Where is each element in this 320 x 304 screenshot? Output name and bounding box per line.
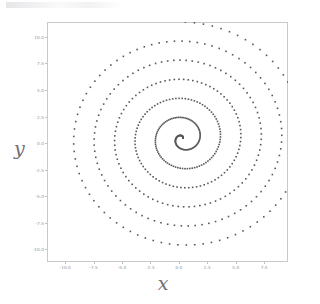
data-point bbox=[237, 117, 239, 119]
data-point bbox=[199, 102, 201, 104]
data-point bbox=[245, 178, 247, 180]
data-point bbox=[163, 160, 165, 162]
data-point bbox=[175, 98, 177, 100]
data-point bbox=[169, 79, 171, 81]
x-tick-mark bbox=[207, 262, 208, 264]
data-point bbox=[96, 120, 98, 122]
data-point bbox=[143, 67, 145, 69]
data-point bbox=[194, 100, 196, 102]
data-point bbox=[129, 52, 131, 54]
data-point bbox=[152, 199, 154, 201]
data-point bbox=[201, 224, 203, 226]
data-point bbox=[118, 84, 120, 86]
y-tick-label: 2.5 bbox=[37, 114, 44, 119]
data-point bbox=[189, 168, 191, 170]
data-point bbox=[237, 35, 239, 37]
data-point bbox=[215, 200, 217, 202]
y-tick-mark bbox=[45, 249, 47, 250]
data-point bbox=[214, 116, 216, 118]
data-point bbox=[77, 114, 79, 116]
data-point bbox=[185, 22, 187, 23]
data-point bbox=[260, 191, 262, 193]
data-point bbox=[179, 59, 181, 61]
data-point bbox=[169, 243, 171, 245]
data-point bbox=[140, 119, 142, 121]
data-point bbox=[106, 98, 108, 100]
data-point bbox=[218, 146, 220, 148]
data-point bbox=[135, 95, 137, 97]
data-point bbox=[174, 117, 176, 119]
data-point bbox=[187, 118, 189, 120]
data-point bbox=[212, 25, 214, 27]
data-point bbox=[181, 117, 183, 119]
data-point bbox=[266, 55, 268, 57]
data-point bbox=[226, 99, 228, 101]
data-point bbox=[187, 168, 189, 170]
data-point bbox=[183, 79, 185, 81]
data-point bbox=[135, 150, 137, 152]
data-point bbox=[157, 201, 159, 203]
data-point bbox=[189, 41, 191, 43]
data-point bbox=[139, 160, 141, 162]
data-point bbox=[245, 39, 247, 41]
data-point bbox=[260, 139, 262, 141]
data-point bbox=[116, 60, 118, 62]
data-point bbox=[200, 185, 202, 187]
data-point bbox=[215, 67, 217, 69]
data-point bbox=[98, 168, 100, 170]
data-point bbox=[178, 78, 180, 80]
data-point bbox=[172, 205, 174, 207]
data-point bbox=[218, 144, 220, 146]
data-point bbox=[157, 103, 159, 105]
y-tick-mark bbox=[45, 143, 47, 144]
data-point bbox=[219, 128, 221, 130]
data-point bbox=[219, 139, 221, 141]
x-tick-mark bbox=[65, 262, 66, 264]
data-point bbox=[240, 141, 242, 143]
data-point bbox=[136, 127, 138, 129]
data-point bbox=[214, 179, 216, 181]
data-point bbox=[117, 121, 119, 123]
data-point bbox=[142, 166, 144, 168]
data-point bbox=[239, 83, 241, 85]
data-point bbox=[248, 174, 250, 176]
y-tick-mark bbox=[45, 170, 47, 171]
data-point bbox=[163, 100, 165, 102]
data-point bbox=[285, 191, 287, 193]
data-point bbox=[159, 155, 161, 157]
data-point bbox=[167, 204, 169, 206]
data-point bbox=[204, 43, 206, 45]
data-point bbox=[144, 113, 146, 115]
data-point bbox=[191, 60, 193, 62]
data-point bbox=[183, 117, 185, 119]
data-point bbox=[79, 106, 81, 108]
data-point bbox=[234, 109, 236, 111]
data-point bbox=[174, 79, 176, 81]
y-tick-label: -7.5 bbox=[35, 220, 44, 225]
data-point bbox=[158, 42, 160, 44]
data-point bbox=[203, 163, 205, 165]
data-point bbox=[167, 223, 169, 225]
data-point bbox=[173, 60, 175, 62]
data-point bbox=[225, 51, 227, 53]
y-tick-mark bbox=[45, 90, 47, 91]
data-point bbox=[205, 84, 207, 86]
data-point bbox=[204, 204, 206, 206]
data-point bbox=[160, 81, 162, 83]
data-point bbox=[202, 243, 204, 245]
data-point bbox=[164, 80, 166, 82]
data-point bbox=[126, 105, 128, 107]
data-point bbox=[144, 46, 146, 48]
data-point bbox=[235, 80, 237, 82]
data-point bbox=[131, 184, 133, 186]
data-point bbox=[127, 76, 129, 78]
data-point bbox=[161, 61, 163, 63]
data-point bbox=[197, 42, 199, 44]
data-point bbox=[217, 121, 219, 123]
data-point bbox=[243, 88, 245, 90]
data-point bbox=[155, 63, 157, 65]
y-tick-label: 0.0 bbox=[37, 141, 44, 146]
data-point bbox=[128, 101, 130, 103]
y-tick-label: 10.0 bbox=[34, 34, 44, 39]
x-tick-mark bbox=[94, 262, 95, 264]
